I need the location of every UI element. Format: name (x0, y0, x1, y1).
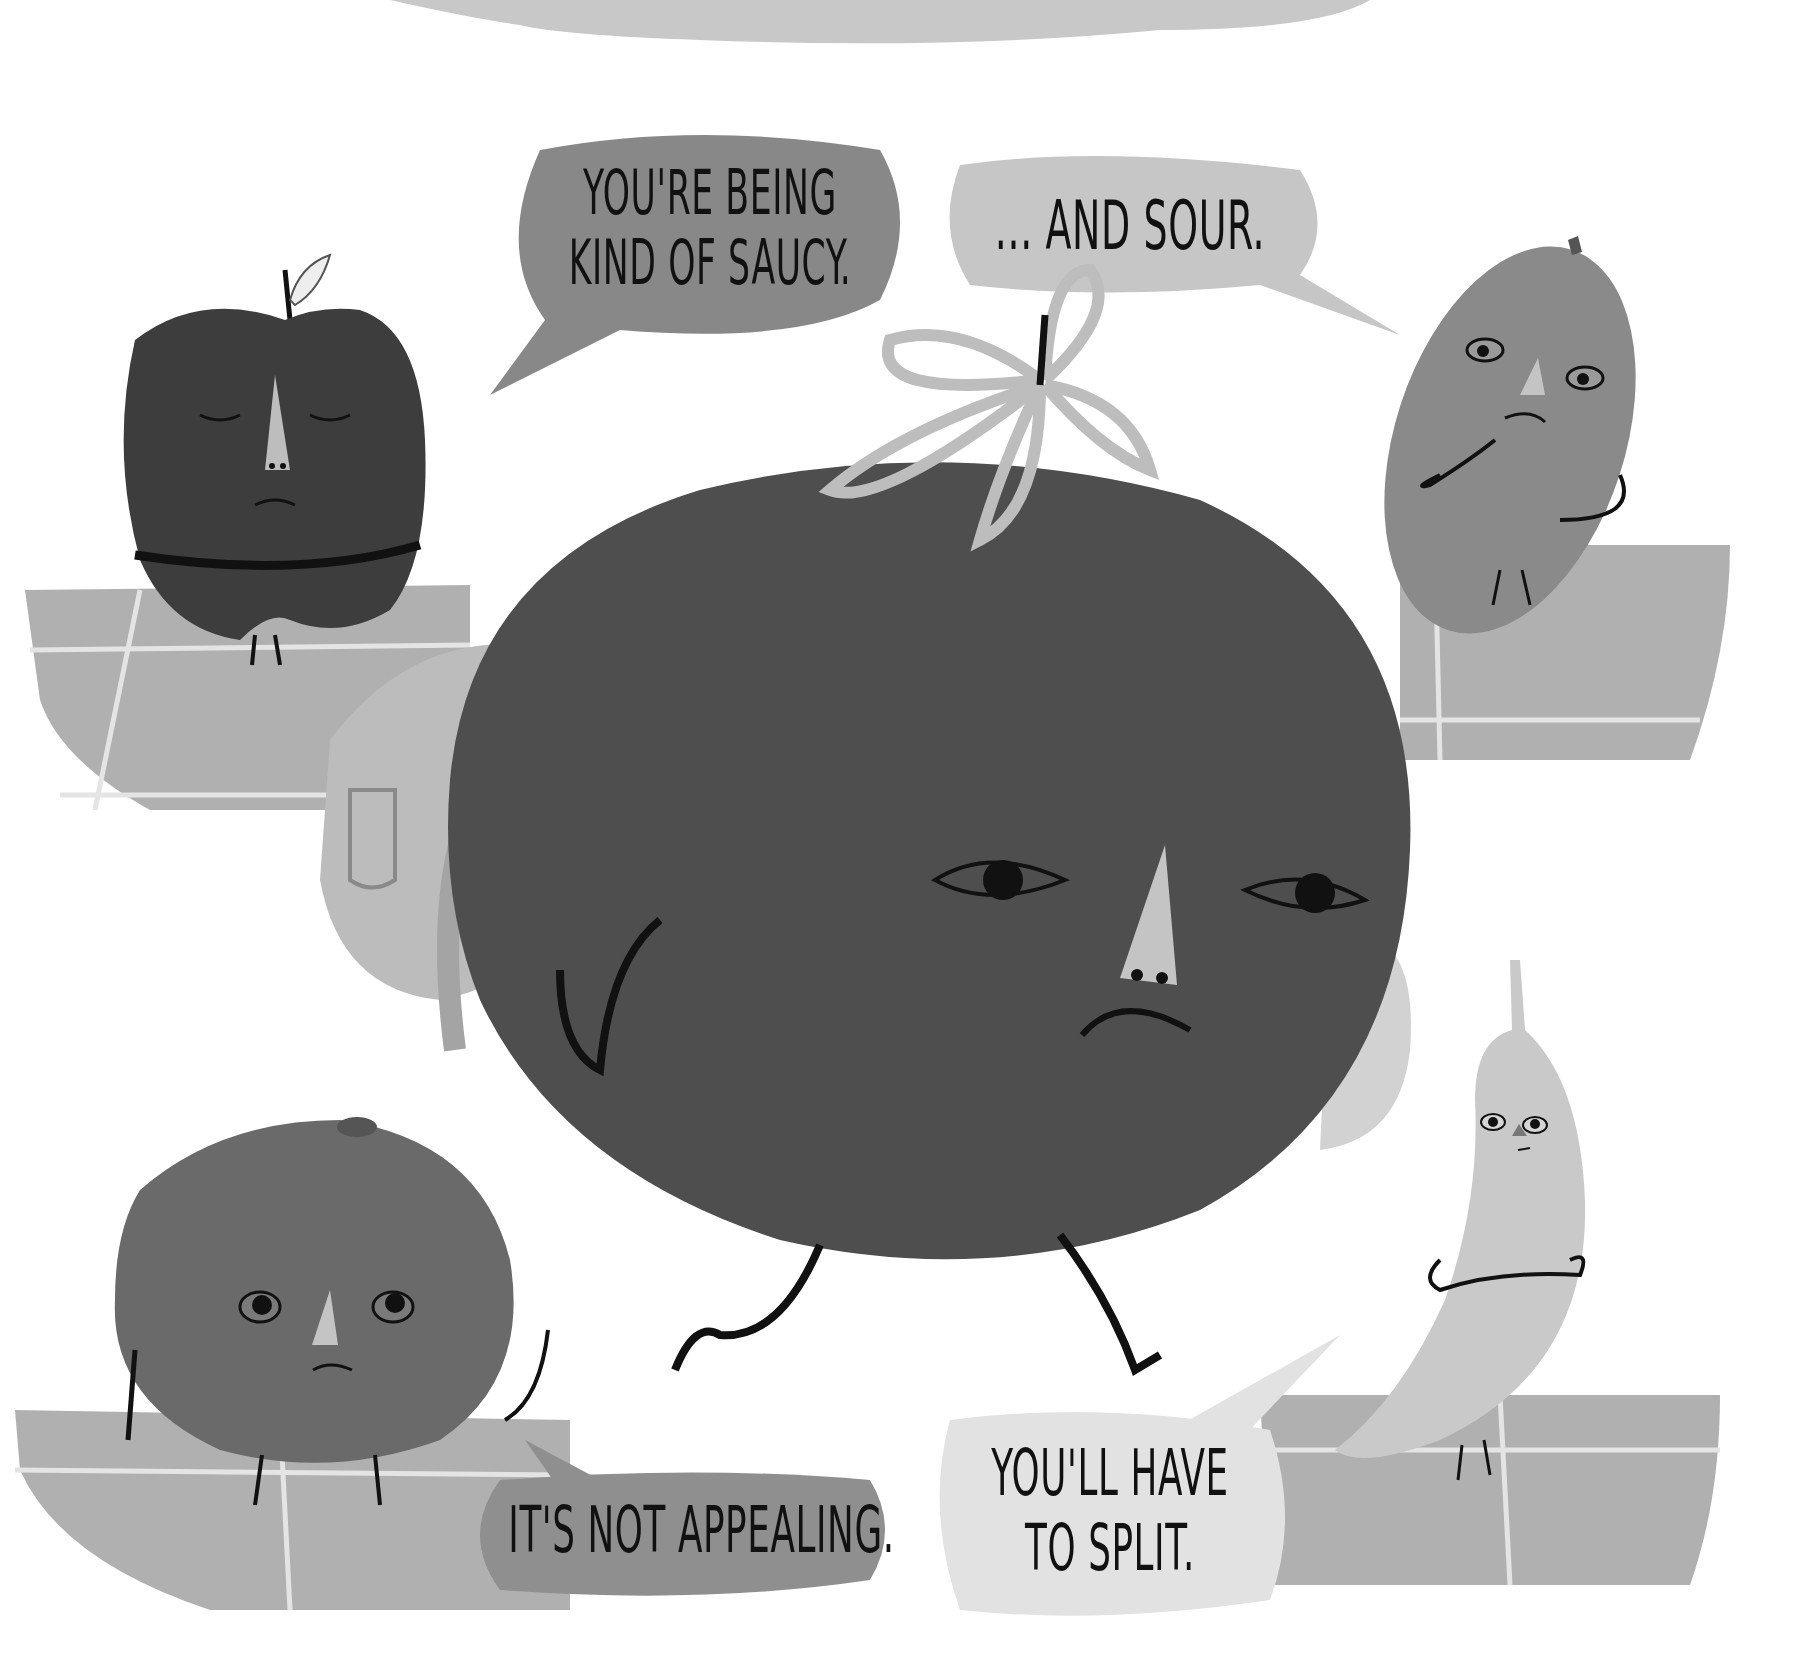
apple-character (124, 255, 426, 665)
speech-bubble-saucy-line2: KIND OF SAUCY. (561, 230, 859, 295)
top-cloud-shape (390, 0, 1370, 43)
speech-bubble-split-line1: YOU'LL HAVE (967, 1440, 1252, 1507)
speech-bubble-split-line2: TO SPLIT. (967, 1515, 1252, 1582)
floor-tiles-bottom-right (1260, 1395, 1720, 1585)
speech-bubble-appealing-line1: IT'S NOT APPEALING. (508, 1497, 861, 1564)
illustration-scene (0, 0, 1798, 1680)
speech-bubble-sour-line1: ... AND SOUR. (987, 190, 1272, 261)
tomato-character (448, 270, 1410, 1370)
speech-bubble-saucy-line1: YOU'RE BEING (561, 160, 859, 225)
